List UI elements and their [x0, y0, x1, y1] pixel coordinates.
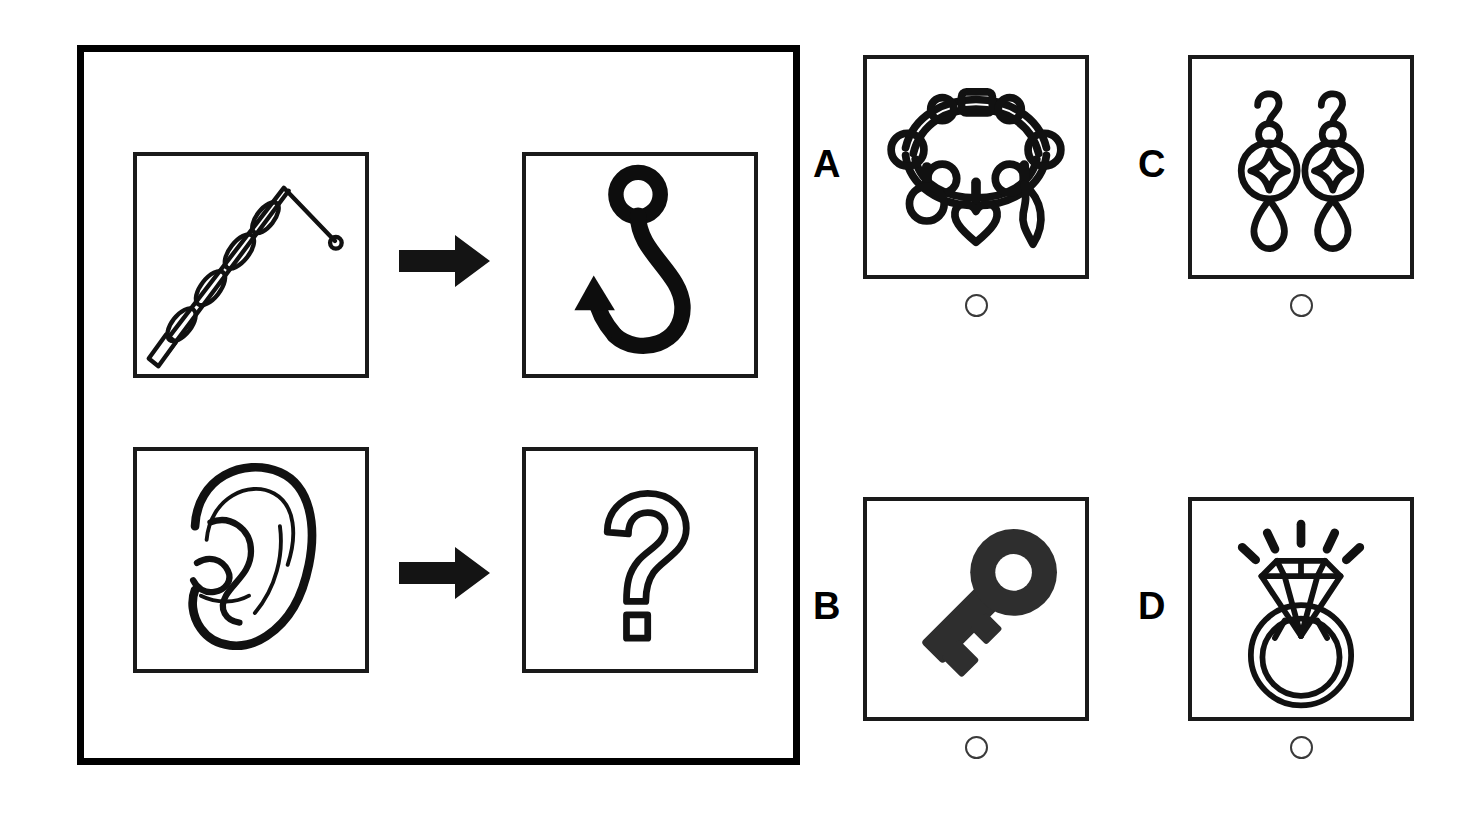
arrow-row-2 [397, 542, 492, 604]
option-a-radio[interactable] [965, 294, 988, 317]
question-mark-icon [526, 451, 754, 669]
fish-hook-icon [526, 156, 754, 374]
option-c-letter: C [1138, 145, 1165, 183]
option-c-radio[interactable] [1290, 294, 1313, 317]
answer-option-b[interactable]: B [805, 487, 1095, 787]
option-d-image-box[interactable] [1188, 497, 1414, 721]
option-b-radio[interactable] [965, 736, 988, 759]
ear-icon [137, 451, 365, 669]
key-icon [867, 501, 1085, 717]
option-d-letter: D [1138, 587, 1165, 625]
answer-options-panel: A [800, 0, 1474, 818]
charm-bracelet-icon [867, 59, 1085, 275]
arrow-row-1 [397, 230, 492, 292]
stimulus-panel [77, 45, 800, 765]
option-b-image-box[interactable] [863, 497, 1089, 721]
stimulus-cell-fishing-rod [133, 152, 369, 378]
diamond-ring-icon [1192, 501, 1410, 717]
earrings-icon [1192, 59, 1410, 275]
answer-option-a[interactable]: A [805, 45, 1095, 345]
option-b-letter: B [813, 587, 840, 625]
option-c-image-box[interactable] [1188, 55, 1414, 279]
fishing-rod-icon [137, 156, 365, 374]
stimulus-cell-ear [133, 447, 369, 673]
answer-option-d[interactable]: D [1130, 487, 1420, 787]
answer-option-c[interactable]: C [1130, 45, 1420, 345]
stimulus-cell-unknown-question-mark [522, 447, 758, 673]
option-a-image-box[interactable] [863, 55, 1089, 279]
option-d-radio[interactable] [1290, 736, 1313, 759]
option-a-letter: A [813, 145, 840, 183]
stimulus-cell-fish-hook [522, 152, 758, 378]
